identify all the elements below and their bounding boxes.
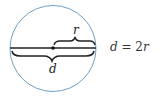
equation-rhs: r	[143, 40, 149, 54]
center-point	[51, 46, 55, 50]
radius-brace	[54, 37, 95, 45]
radius-label: r	[73, 23, 80, 37]
diameter-label: d	[49, 62, 57, 76]
equation-operator: = 2	[118, 40, 143, 54]
equation-lhs: d	[110, 40, 118, 54]
diameter-equation: d = 2r	[110, 40, 149, 54]
diameter-brace	[12, 51, 94, 61]
